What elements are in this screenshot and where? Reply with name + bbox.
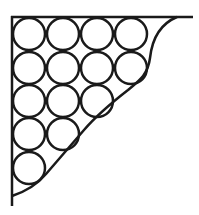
circle-r3-c2 (47, 85, 79, 117)
circles-group (13, 18, 147, 184)
circle-r5-c1 (13, 152, 45, 184)
circle-r4-c2 (47, 118, 79, 150)
circle-r3-c3 (81, 85, 113, 117)
circle-r4-c1 (13, 118, 45, 150)
boundary-curve (12, 17, 177, 196)
circle-r3-c1 (13, 85, 45, 117)
circle-r1-c1 (13, 18, 45, 50)
circle-r2-c3 (81, 52, 113, 84)
circle-packing-diagram (0, 0, 199, 215)
circle-r2-c2 (47, 52, 79, 84)
frame (11, 16, 193, 206)
circle-r1-c2 (47, 18, 79, 50)
circle-r1-c3 (81, 18, 113, 50)
circle-r1-c4 (115, 18, 147, 50)
circle-r2-c1 (13, 52, 45, 84)
circle-r2-c4 (115, 52, 147, 84)
